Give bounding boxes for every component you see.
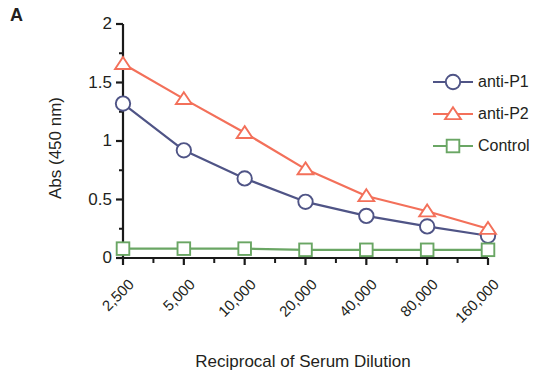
legend-item-control[interactable]: Control (432, 130, 550, 162)
data-point-circle (446, 75, 460, 89)
chart-legend: anti-P1anti-P2Control (432, 66, 550, 162)
legend-marker-circle-icon (432, 71, 474, 93)
marker-circle (446, 75, 460, 89)
data-point-square (447, 140, 460, 153)
legend-item-anti-p1[interactable]: anti-P1 (432, 66, 550, 98)
legend-marker-triangle-icon (432, 103, 474, 125)
legend-label: anti-P1 (474, 73, 529, 91)
x-axis-title: Reciprocal of Serum Dilution (118, 352, 488, 372)
legend-label: Control (474, 137, 530, 155)
legend-label: anti-P2 (474, 105, 529, 123)
marker-square (447, 140, 460, 153)
legend-marker-square-icon (432, 135, 474, 157)
x-axis-tick-labels: 2,5005,00010,00020,00040,00080,000160,00… (0, 0, 553, 382)
legend-item-anti-p2[interactable]: anti-P2 (432, 98, 550, 130)
figure-panel-a: A Abs (450 nm) 00.511.52 2,5005,00010,00… (0, 0, 553, 382)
